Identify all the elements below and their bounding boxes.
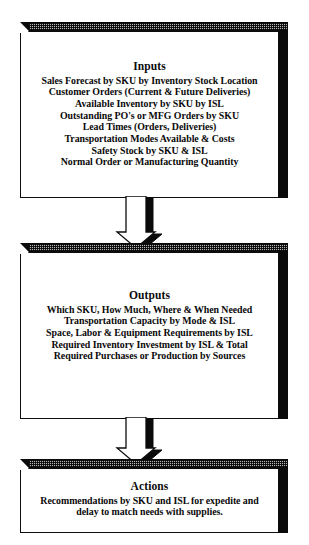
inputs-line-2: Customer Orders (Current & Future Delive… [20,86,279,98]
down-arrow-icon [112,196,170,250]
actions-box-corner-bevel [20,459,31,470]
inputs-box-top-bevel-texture [29,23,287,30]
actions-line-2: delay to match needs with supplies. [20,506,279,518]
outputs-line-1: Which SKU, How Much, Where & When Needed [20,304,279,316]
outputs-title: Outputs [20,289,279,303]
inputs-line-5: Lead Times (Orders, Deliveries) [20,121,279,133]
inputs-line-6: Transportation Modes Available & Costs [20,133,279,145]
actions-title: Actions [20,480,279,494]
outputs-box-top-bevel [20,243,288,252]
connector-inputs-to-outputs [112,196,170,250]
inputs-line-4: Outstanding PO's or MFG Orders by SKU [20,110,279,122]
outputs-box: Outputs Which SKU, How Much, Where & Whe… [20,243,288,419]
inputs-line-1: Sales Forecast by SKU by Inventory Stock… [20,75,279,87]
actions-box: Actions Recommendations by SKU and ISL f… [20,459,288,533]
outputs-box-content: Outputs Which SKU, How Much, Where & Whe… [20,289,279,362]
down-arrow-icon [112,417,170,465]
actions-line-1: Recommendations by SKU and ISL for exped… [20,495,279,507]
outputs-line-5: Required Purchases or Production by Sour… [20,350,279,362]
inputs-line-3: Available Inventory by SKU by ISL [20,98,279,110]
inputs-box-content: Inputs Sales Forecast by SKU by Inventor… [20,60,279,168]
inputs-box-shadow-right [279,22,288,198]
actions-box-top-bevel-texture [29,460,287,467]
inputs-line-7: Safety Stock by SKU & ISL [20,145,279,157]
outputs-line-2: Transportation Capacity by Mode & ISL [20,315,279,327]
inputs-line-8: Normal Order or Manufacturing Quantity [20,156,279,168]
process-flow-diagram: Inputs Sales Forecast by SKU by Inventor… [0,0,309,545]
inputs-box-top-bevel [20,22,288,31]
actions-box-content: Actions Recommendations by SKU and ISL f… [20,480,279,518]
actions-box-top-bevel [20,459,288,468]
connector-outputs-to-actions [112,417,170,465]
inputs-box-corner-bevel [20,22,31,33]
inputs-box: Inputs Sales Forecast by SKU by Inventor… [20,22,288,198]
outputs-line-3: Space, Labor & Equipment Requirements by… [20,327,279,339]
outputs-box-top-bevel-texture [29,244,287,251]
outputs-box-corner-bevel [20,243,31,254]
actions-box-shadow-right [279,459,288,533]
outputs-box-shadow-right [279,243,288,419]
inputs-title: Inputs [20,60,279,74]
outputs-line-4: Required Inventory Investment by ISL & T… [20,339,279,351]
